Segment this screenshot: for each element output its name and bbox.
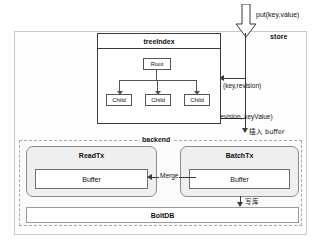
tree-edge-horizontal-bar: [119, 80, 197, 81]
tree-node-child: Child: [184, 94, 210, 106]
tree-node-root: Root: [143, 58, 171, 70]
write-db-label: 写库: [245, 196, 259, 206]
batchtx-title: BatchTx: [181, 152, 298, 159]
put-arrow-icon: [234, 4, 258, 42]
trunk-arrowhead-icon: [242, 128, 248, 133]
insert-buffer-label: 插入 buffer: [249, 126, 284, 136]
tree-edge-root-vertical: [156, 70, 157, 80]
boltdb-box: BoltDB: [26, 207, 299, 223]
put-key-value-label: put(key,value): [256, 11, 299, 18]
key-revision-edge-line: [222, 78, 246, 79]
readtx-title: ReadTx: [27, 152, 156, 159]
diagram-canvas: store put(key,value) (key,revision) (rev…: [0, 0, 322, 250]
readtx-buffer-box: Buffer: [35, 169, 148, 189]
treeindex-panel: treeIndex Root Child Child Child: [97, 33, 221, 124]
batchtx-buffer-box: Buffer: [189, 169, 290, 189]
batchtx-box: BatchTx Buffer: [180, 146, 299, 197]
treeindex-title: treeIndex: [143, 38, 174, 45]
treeindex-titlebar: treeIndex: [98, 34, 220, 49]
store-label: store: [270, 33, 288, 40]
key-revision-label: (key,revision): [223, 82, 261, 89]
boltdb-label: BoltDB: [151, 212, 175, 219]
revision-keyvalue-label: (revision, keyValue): [216, 113, 273, 120]
merge-arrowhead-icon: [147, 174, 152, 180]
backend-label: backend: [140, 136, 172, 143]
tree-node-child: Child: [106, 94, 132, 106]
tree-node-child: Child: [145, 94, 171, 106]
readtx-box: ReadTx Buffer: [26, 146, 157, 197]
merge-label: Merge: [159, 172, 179, 179]
